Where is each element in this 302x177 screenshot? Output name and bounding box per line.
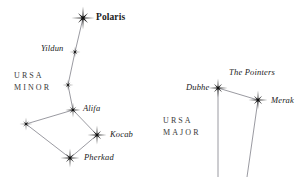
star-chart: Polaris Yildun Alifa Kocab Pherkad URSA … [0,0,302,177]
star-marker [63,80,74,91]
constellation-line [218,88,258,100]
constellation-line-open [247,100,258,177]
constellation-line [73,110,97,135]
constellation-line [26,124,70,158]
star-yildun [70,47,81,58]
constellation-line [75,18,83,52]
constellation-line [68,52,75,85]
star-marker [20,118,33,131]
constellation-line [26,110,73,124]
star-merak [249,91,268,110]
constellation-line [70,135,97,158]
star-polaris [72,7,95,30]
sky-map-svg [0,0,302,177]
star-layer [20,7,268,168]
star-pherkad [61,149,80,168]
constellation-line-layer [26,18,258,177]
constellation-line [68,85,73,110]
star-dubhe [209,79,228,98]
